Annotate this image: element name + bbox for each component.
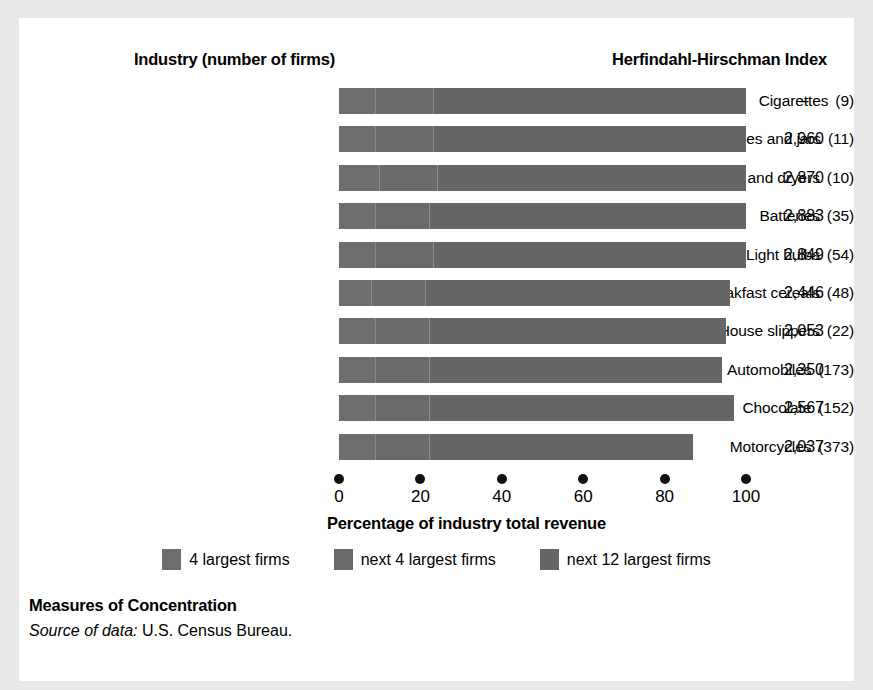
legend-label: 4 largest firms <box>189 551 289 569</box>
chart-row: Cigarettes(9)– <box>19 86 854 124</box>
bar-track <box>339 434 746 460</box>
stacked-bar[interactable] <box>339 126 746 152</box>
hhi-value: 2,883 <box>754 201 854 239</box>
bar-segment-1[interactable] <box>339 357 375 383</box>
bar-segment-3[interactable] <box>429 357 722 383</box>
bar-segment-2[interactable] <box>371 280 425 306</box>
chart-row: House slippers(22)2,053 <box>19 316 854 354</box>
figure-caption: Measures of Concentration Source of data… <box>29 596 729 640</box>
bar-segment-1[interactable] <box>339 434 375 460</box>
bar-segment-2[interactable] <box>375 357 429 383</box>
bar-segment-3[interactable] <box>433 242 746 268</box>
stacked-bar[interactable] <box>339 318 726 344</box>
legend-swatch-icon <box>334 549 353 570</box>
bar-segment-1[interactable] <box>339 318 375 344</box>
bar-segment-2[interactable] <box>375 126 433 152</box>
bar-track <box>339 357 746 383</box>
legend-swatch-icon <box>162 549 181 570</box>
legend-item[interactable]: 4 largest firms <box>162 549 289 570</box>
bar-segment-3[interactable] <box>429 395 734 421</box>
column-header-hhi: Herfindahl-Hirschman Index <box>585 50 854 69</box>
chart-row: Chocolate(152)2,567 <box>19 393 854 431</box>
legend-item[interactable]: next 4 largest firms <box>334 549 496 570</box>
chart-row: Batteries(35)2,883 <box>19 201 854 239</box>
bar-segment-3[interactable] <box>429 318 726 344</box>
chart-row: Breakfast cereals(48)2,446 <box>19 278 854 316</box>
bar-segment-3[interactable] <box>425 280 730 306</box>
bar-segment-2[interactable] <box>375 318 429 344</box>
stacked-bar[interactable] <box>339 395 734 421</box>
bar-segment-1[interactable] <box>339 242 375 268</box>
bar-segment-2[interactable] <box>375 203 429 229</box>
bar-segment-2[interactable] <box>375 434 429 460</box>
legend-label: next 4 largest firms <box>361 551 496 569</box>
bar-segment-1[interactable] <box>339 395 375 421</box>
hhi-value: 2,960 <box>754 124 854 162</box>
bar-track <box>339 395 746 421</box>
axis-dot-marker <box>334 474 344 484</box>
bar-segment-1[interactable] <box>339 165 379 191</box>
caption-title: Measures of Concentration <box>29 596 729 615</box>
bar-track <box>339 318 746 344</box>
axis-dot-marker <box>578 474 588 484</box>
axis-dot-marker <box>741 474 751 484</box>
legend-swatch-icon <box>540 549 559 570</box>
axis-dot-marker <box>660 474 670 484</box>
chart-row: Glass bottles and jars(11)2,960 <box>19 124 854 162</box>
axis-tick-label: 80 <box>635 487 695 507</box>
bar-track <box>339 126 746 152</box>
x-axis: 020406080100 Percentage of industry tota… <box>19 470 854 526</box>
x-axis-title-text: Percentage of industry total revenue <box>327 514 606 533</box>
axis-dot-marker <box>415 474 425 484</box>
bar-segment-2[interactable] <box>375 395 429 421</box>
stacked-bar[interactable] <box>339 280 730 306</box>
chart-row: Motorcycles(373)2,037 <box>19 432 854 470</box>
x-axis-dot-markers <box>19 470 854 486</box>
caption-source: Source of data: U.S. Census Bureau. <box>29 622 729 640</box>
caption-source-text: U.S. Census Bureau. <box>138 622 293 639</box>
hhi-value: 2,350 <box>754 355 854 393</box>
bar-segment-1[interactable] <box>339 203 375 229</box>
stacked-bar[interactable] <box>339 165 746 191</box>
bar-segment-2[interactable] <box>375 88 433 114</box>
bar-segment-3[interactable] <box>429 203 746 229</box>
chart-legend: 4 largest firmsnext 4 largest firmsnext … <box>19 549 854 570</box>
chart-row: Light bulbs(54)2,849 <box>19 240 854 278</box>
bar-track <box>339 242 746 268</box>
axis-tick-label: 0 <box>309 487 369 507</box>
chart-row: Washing machines and dryers(10)2,870 <box>19 163 854 201</box>
caption-source-prefix: Source of data: <box>29 622 138 639</box>
bar-track <box>339 280 746 306</box>
hhi-value: 2,037 <box>754 432 854 470</box>
bar-segment-2[interactable] <box>379 165 437 191</box>
legend-label: next 12 largest firms <box>567 551 711 569</box>
axis-tick-label: 40 <box>472 487 532 507</box>
hhi-value: 2,567 <box>754 393 854 431</box>
bar-segment-1[interactable] <box>339 280 371 306</box>
x-axis-title: Percentage of industry total revenue <box>19 514 854 533</box>
stacked-bar[interactable] <box>339 88 746 114</box>
x-axis-tick-labels: 020406080100 <box>19 487 854 511</box>
bar-track <box>339 88 746 114</box>
bar-segment-3[interactable] <box>433 126 746 152</box>
hhi-value: 2,446 <box>754 278 854 316</box>
bar-segment-1[interactable] <box>339 126 375 152</box>
stacked-bar[interactable] <box>339 357 722 383</box>
bar-segment-3[interactable] <box>429 434 693 460</box>
bar-segment-3[interactable] <box>437 165 746 191</box>
legend-item[interactable]: next 12 largest firms <box>540 549 711 570</box>
bar-segment-1[interactable] <box>339 88 375 114</box>
bar-segment-2[interactable] <box>375 242 433 268</box>
stacked-bar[interactable] <box>339 434 693 460</box>
chart-row: Automobiles(173)2,350 <box>19 355 854 393</box>
figure-panel: Industry (number of firms) Herfindahl-Hi… <box>19 18 854 681</box>
hhi-value: 2,053 <box>754 316 854 354</box>
bar-track <box>339 165 746 191</box>
hhi-value: 2,849 <box>754 240 854 278</box>
stacked-bar[interactable] <box>339 203 746 229</box>
bar-segment-3[interactable] <box>433 88 746 114</box>
stacked-bar[interactable] <box>339 242 746 268</box>
hhi-value: – <box>754 86 854 124</box>
hhi-value: 2,870 <box>754 163 854 201</box>
bar-track <box>339 203 746 229</box>
